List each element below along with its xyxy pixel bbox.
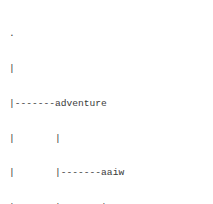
tree-connector: | | | (9, 202, 205, 204)
directory-tree: . | |-------adventure | | | |-------aaiw… (9, 5, 205, 204)
tree-node-aaiw: | |-------aaiw (9, 167, 205, 179)
tree-node-adventure: |-------adventure (9, 98, 205, 110)
tree-connector: | (9, 63, 205, 75)
tree-connector: | | (9, 133, 205, 145)
tree-root: . (9, 28, 205, 40)
